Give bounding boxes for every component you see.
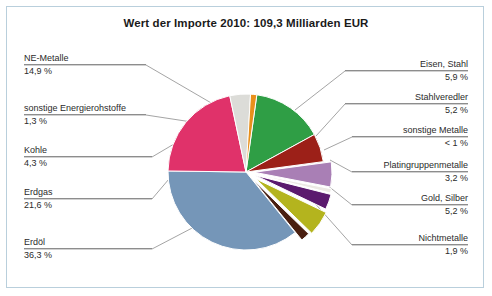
label-sonstige-metalle-value: < 1 %: [403, 136, 468, 149]
label-erdgas-value: 21,6 %: [24, 198, 53, 211]
label-nichtmetalle-name: Nichtmetalle: [418, 232, 468, 244]
rule-eisen-stahl: [345, 70, 468, 71]
label-erdoel-name: Erdöl: [24, 236, 52, 248]
label-ne-metalle-value: 14,9 %: [24, 64, 69, 77]
rule-platingruppenmetalle: [352, 171, 468, 172]
label-platingruppenmetalle-value: 3,2 %: [383, 171, 468, 184]
label-kohle-value: 4,3 %: [24, 156, 47, 169]
pie-slice-layer: [168, 94, 332, 250]
label-stahlveredler-name: Stahlveredler: [415, 91, 468, 103]
label-nichtmetalle-value: 1,9 %: [418, 244, 468, 257]
label-erdgas-name: Erdgas: [24, 186, 53, 198]
rule-ne-metalle: [24, 64, 146, 65]
label-kohle-name: Kohle: [24, 144, 47, 156]
label-sonstige-energierohstoffe-name: sonstige Energierohstoffe: [24, 102, 126, 114]
label-erdoel-value: 36,3 %: [24, 248, 52, 261]
rule-kohle: [24, 156, 152, 157]
rule-erdoel: [24, 248, 152, 249]
rule-erdgas: [24, 198, 152, 199]
rule-sonstige-metalle: [352, 136, 468, 137]
label-platingruppenmetalle-name: Platingruppenmetalle: [383, 159, 468, 171]
rule-nichtmetalle: [352, 244, 468, 245]
label-eisen-stahl-name: Eisen, Stahl: [420, 58, 468, 70]
rule-gold-silber: [352, 204, 468, 205]
rule-sonstige-energierohstoffe: [24, 114, 146, 115]
label-eisen-stahl-value: 5,9 %: [420, 70, 468, 83]
label-stahlveredler-value: 5,2 %: [415, 103, 468, 116]
label-gold-silber-value: 5,2 %: [421, 204, 468, 217]
label-sonstige-metalle-name: sonstige Metalle: [403, 124, 468, 136]
label-sonstige-energierohstoffe-value: 1,3 %: [24, 114, 126, 127]
rule-stahlveredler: [345, 103, 468, 104]
label-gold-silber-name: Gold, Silber: [421, 192, 468, 204]
label-ne-metalle-name: NE-Metalle: [24, 52, 69, 64]
